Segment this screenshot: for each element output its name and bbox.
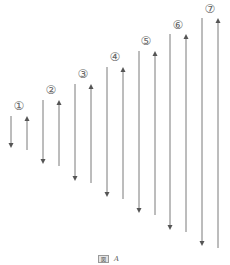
figure-caption: 図 A xyxy=(98,254,119,263)
arrow-pair-2: ② xyxy=(41,83,62,166)
pair-label: ④ xyxy=(110,50,121,64)
up-arrow-icon xyxy=(184,34,189,232)
arrow-pair-7: ⑦ xyxy=(200,2,221,248)
up-arrow-icon xyxy=(89,84,94,183)
arrow-pair-6: ⑥ xyxy=(168,18,189,232)
pair-label: ⑤ xyxy=(141,34,152,48)
figure-tag: 図 xyxy=(98,255,109,263)
arrow-pair-4: ④ xyxy=(105,50,126,199)
up-arrow-icon xyxy=(57,100,62,166)
down-arrow-icon xyxy=(137,51,142,213)
down-arrow-icon xyxy=(105,67,110,197)
pair-label: ⑦ xyxy=(205,2,216,16)
pair-label: ① xyxy=(14,99,25,113)
up-arrow-icon xyxy=(216,18,221,248)
down-arrow-icon xyxy=(168,34,173,230)
arrow-pair-3: ③ xyxy=(73,67,94,183)
arrow-pair-1: ① xyxy=(9,99,30,150)
figure-letter: A xyxy=(114,255,119,263)
pair-label: ⑥ xyxy=(173,18,184,32)
down-arrow-icon xyxy=(200,18,205,246)
down-arrow-icon xyxy=(41,100,46,164)
up-arrow-icon xyxy=(153,51,158,215)
pair-label: ③ xyxy=(78,67,89,81)
arrow-pair-5: ⑤ xyxy=(137,34,158,215)
up-arrow-icon xyxy=(121,67,126,199)
down-arrow-icon xyxy=(73,84,78,181)
pair-label: ② xyxy=(46,83,57,97)
down-arrow-icon xyxy=(9,116,14,148)
up-arrow-icon xyxy=(25,116,30,150)
arrow-pairs-diagram: ①②③④⑤⑥⑦ xyxy=(0,0,230,265)
